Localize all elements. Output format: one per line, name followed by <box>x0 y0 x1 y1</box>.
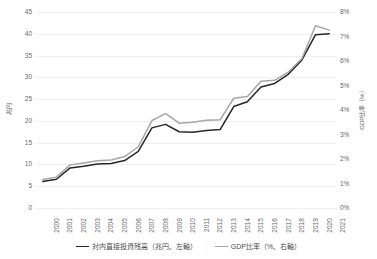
y-axis-left-tick-label: 5 <box>10 182 32 189</box>
y-axis-right-tick-label: 2% <box>340 155 362 162</box>
x-axis-tick-label: 2015 <box>258 218 265 232</box>
x-axis-tick-label: 2007 <box>149 218 156 232</box>
legend-label: 対内直接投資残高（兆円、左軸） <box>92 241 197 251</box>
y-axis-right-tick-label: 7% <box>340 33 362 40</box>
legend-item[interactable]: GDP比率（%、右軸） <box>215 241 301 251</box>
legend-swatch <box>76 246 89 247</box>
x-axis-tick-label: 2003 <box>94 218 101 232</box>
x-axis-tick-label: 2018 <box>299 218 306 232</box>
y-axis-left-tick-label: 10 <box>10 160 32 167</box>
y-axis-left-tick-label: 45 <box>10 8 32 15</box>
x-axis-tick-label: 2014 <box>244 218 251 232</box>
legend: 対内直接投資残高（兆円、左軸）GDP比率（%、右軸） <box>0 241 377 251</box>
x-axis-tick-label: 2017 <box>285 218 292 232</box>
plot-area <box>36 12 336 208</box>
series-line <box>43 26 329 180</box>
x-axis-tick-label: 2019 <box>312 218 319 232</box>
series-line <box>43 34 329 182</box>
legend-swatch <box>215 246 228 247</box>
y-axis-left-tick-label: 35 <box>10 52 32 59</box>
x-axis-tick-label: 2013 <box>230 218 237 232</box>
x-axis-tick-label: 2009 <box>176 218 183 232</box>
y-axis-left-tick-label: 25 <box>10 95 32 102</box>
y-axis-right-tick-label: 4% <box>340 106 362 113</box>
y-axis-right-tick-label: 8% <box>340 8 362 15</box>
x-axis-tick-label: 2005 <box>121 218 128 232</box>
x-axis-tick-label: 2020 <box>326 218 333 232</box>
x-axis-tick-label: 2001 <box>67 218 74 232</box>
y-axis-left-tick-label: 40 <box>10 30 32 37</box>
series-lines <box>36 12 336 208</box>
x-axis-tick-label: 2002 <box>80 218 87 232</box>
legend-label: GDP比率（%、右軸） <box>231 241 301 251</box>
y-axis-right-tick-label: 0% <box>340 204 362 211</box>
y-axis-left-tick-label: 0 <box>10 204 32 211</box>
x-axis-tick-label: 2000 <box>53 218 60 232</box>
legend-item[interactable]: 対内直接投資残高（兆円、左軸） <box>76 241 197 251</box>
x-axis-tick-label: 2011 <box>203 218 210 232</box>
x-axis-tick-label: 2006 <box>135 218 142 232</box>
x-axis-tick-label: 2016 <box>271 218 278 232</box>
x-axis-tick-label: 2008 <box>162 218 169 232</box>
y-axis-right-tick-label: 5% <box>340 82 362 89</box>
x-axis-tick-label: 2012 <box>217 218 224 232</box>
x-axis-tick-label: 2010 <box>189 218 196 232</box>
y-axis-right-tick-label: 6% <box>340 57 362 64</box>
chart-container: 兆円 GDP比率（%） 051015202530354045 0%1%2%3%4… <box>0 0 377 259</box>
y-axis-left-tick-label: 30 <box>10 73 32 80</box>
x-axis-tick-label: 2021 <box>339 218 346 232</box>
y-axis-left-tick-label: 15 <box>10 139 32 146</box>
y-axis-left-tick-label: 20 <box>10 117 32 124</box>
gridline <box>36 208 336 209</box>
y-axis-right-tick-label: 3% <box>340 131 362 138</box>
x-axis-tick-label: 2004 <box>108 218 115 232</box>
y-axis-right-tick-label: 1% <box>340 180 362 187</box>
